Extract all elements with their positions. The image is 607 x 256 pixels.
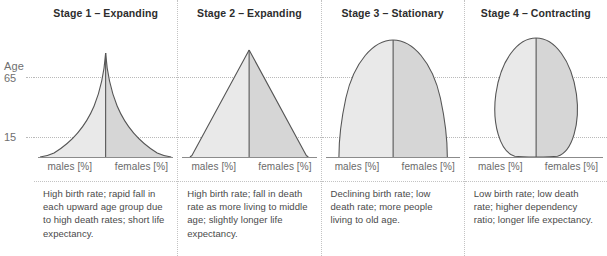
pyramid-stage-1 bbox=[34, 28, 177, 158]
panel-title-stage-4: Stage 4 – Contracting bbox=[465, 7, 607, 19]
caption-stage-1: High birth rate; rapid fall in each upwa… bbox=[43, 187, 170, 240]
caption-stage-4: Low birth rate; low death rate; higher d… bbox=[474, 187, 600, 227]
baseline-axis-stage-2 bbox=[182, 157, 316, 158]
pyramid-stage-4 bbox=[465, 28, 607, 158]
males-label-stage-1: males [%] bbox=[34, 161, 106, 172]
females-label-stage-1: females [%] bbox=[106, 161, 178, 172]
caption-separator-stage-4 bbox=[465, 181, 607, 182]
caption-stage-2: High birth rate; fall in death rate as m… bbox=[187, 187, 313, 240]
female-area-stage-1 bbox=[106, 53, 172, 157]
panel-title-stage-1: Stage 1 – Expanding bbox=[34, 7, 177, 19]
panel-title-stage-3: Stage 3 – Stationary bbox=[322, 7, 464, 19]
baseline-axis-stage-1 bbox=[38, 157, 173, 158]
panel-title-stage-2: Stage 2 – Expanding bbox=[178, 7, 320, 19]
pyramid-stage-3 bbox=[322, 28, 464, 158]
males-label-stage-2: males [%] bbox=[178, 161, 249, 172]
demographic-transition-figure: Age 65 15 Stage 1 – Expanding bbox=[0, 0, 607, 256]
females-label-stage-3: females [%] bbox=[393, 161, 464, 172]
gridline-stub-65 bbox=[26, 77, 34, 78]
panel-stage-1: Stage 1 – Expanding males [%] fe bbox=[34, 0, 177, 256]
sex-labels-stage-1: males [%] females [%] bbox=[34, 161, 177, 172]
age-axis: Age 65 15 bbox=[0, 0, 34, 185]
baseline-axis-stage-4 bbox=[469, 157, 603, 158]
females-label-stage-2: females [%] bbox=[249, 161, 320, 172]
male-area-stage-1 bbox=[40, 53, 106, 157]
gridline-stub-15 bbox=[26, 137, 34, 138]
female-area-stage-3 bbox=[393, 40, 447, 157]
panel-stage-2: Stage 2 – Expanding males [%] females [%… bbox=[177, 0, 320, 256]
age-tick-15: 15 bbox=[4, 131, 16, 143]
sex-labels-stage-3: males [%] females [%] bbox=[322, 161, 464, 172]
age-tick-65: 65 bbox=[4, 72, 16, 84]
female-area-stage-4 bbox=[536, 38, 577, 157]
caption-separator-stage-2 bbox=[178, 181, 320, 182]
panel-row: Stage 1 – Expanding males [%] fe bbox=[34, 0, 607, 256]
male-area-stage-4 bbox=[495, 38, 536, 157]
caption-separator-stage-1 bbox=[34, 181, 177, 182]
caption-stage-3: Declining birth rate; low death rate; mo… bbox=[331, 187, 457, 227]
panel-stage-3: Stage 3 – Stationary males [%] females [… bbox=[321, 0, 464, 256]
panel-stage-4: Stage 4 – Contracting males [%] females … bbox=[464, 0, 607, 256]
age-axis-caption: Age bbox=[4, 60, 24, 72]
pyramid-stage-2 bbox=[178, 28, 320, 158]
males-label-stage-3: males [%] bbox=[322, 161, 393, 172]
male-area-stage-3 bbox=[338, 40, 392, 157]
males-label-stage-4: males [%] bbox=[465, 161, 536, 172]
sex-labels-stage-2: males [%] females [%] bbox=[178, 161, 320, 172]
caption-separator-stage-3 bbox=[322, 181, 464, 182]
baseline-axis-stage-3 bbox=[326, 157, 460, 158]
sex-labels-stage-4: males [%] females [%] bbox=[465, 161, 607, 172]
females-label-stage-4: females [%] bbox=[536, 161, 607, 172]
